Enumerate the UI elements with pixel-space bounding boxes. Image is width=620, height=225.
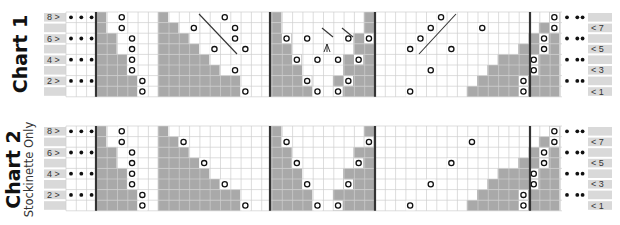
- row-label-bg: [588, 13, 612, 22]
- yarn-over-cell: [220, 13, 229, 23]
- no-stitch-cell: [96, 86, 137, 97]
- row-number-right: < 5: [591, 44, 604, 54]
- yarn-over-cell: [550, 13, 559, 23]
- purl-dot: [79, 37, 83, 41]
- no-stitch-cell: [158, 12, 168, 23]
- no-stitch-cell: [271, 65, 302, 76]
- no-stitch-cell: [158, 190, 240, 201]
- no-stitch-cell: [96, 54, 127, 65]
- purl-dot: [581, 193, 585, 197]
- no-stitch-cell: [96, 12, 106, 23]
- yarn-over-cell: [138, 76, 147, 86]
- purl-dot: [565, 15, 569, 19]
- purl-dot: [581, 129, 585, 133]
- yarn-over-cell: [519, 87, 528, 97]
- yarn-over-cell: [303, 76, 312, 86]
- yarn-over-cell: [416, 34, 425, 44]
- no-stitch-cell: [96, 168, 127, 179]
- yarn-over-cell: [303, 34, 312, 44]
- yarn-over-cell: [220, 180, 229, 190]
- no-stitch-cell: [271, 44, 292, 55]
- yarn-over-cell: [406, 201, 415, 211]
- yarn-over-cell: [550, 137, 559, 147]
- yarn-over-cell: [354, 55, 363, 65]
- purl-dot: [90, 58, 94, 62]
- no-stitch-cell: [487, 179, 559, 190]
- yarn-over-cell: [354, 158, 363, 168]
- no-stitch-cell: [271, 137, 281, 148]
- purl-dot: [90, 129, 94, 133]
- yarn-over-cell: [282, 137, 291, 147]
- row-number-right: < 7: [591, 137, 604, 147]
- yarn-over-cell: [519, 190, 528, 200]
- yarn-over-cell: [117, 23, 126, 33]
- purl-dot: [69, 129, 73, 133]
- yarn-over-cell: [344, 34, 353, 44]
- yarn-over-cell: [127, 55, 136, 65]
- purl-dot: [575, 79, 579, 83]
- purl-dot: [79, 151, 83, 155]
- yarn-over-cell: [200, 158, 209, 168]
- no-stitch-cell: [158, 76, 240, 87]
- no-stitch-cell: [158, 137, 179, 148]
- no-stitch-cell: [96, 76, 137, 87]
- chart-1-grid: 8 >6 >4 >2 >< 7< 5< 3< 1: [0, 0, 620, 108]
- chart-1: Chart 1 8 >6 >4 >2 >< 7< 5< 3< 1: [0, 0, 620, 108]
- yarn-over-cell: [539, 44, 548, 54]
- row-label-bg: [44, 159, 66, 168]
- yarn-over-cell: [406, 44, 415, 54]
- yarn-over-cell: [519, 201, 528, 211]
- purl-dot: [575, 129, 579, 133]
- purl-dot: [79, 58, 83, 62]
- row-number-left: 2 >: [47, 76, 60, 86]
- purl-dot: [90, 151, 94, 155]
- yarn-over-cell: [447, 44, 456, 54]
- purl-dot: [565, 193, 569, 197]
- no-stitch-cell: [518, 158, 559, 169]
- purl-dot: [90, 15, 94, 19]
- row-label-bg: [44, 45, 66, 54]
- purl-dot: [69, 37, 73, 41]
- row-number-left: 4 >: [47, 169, 60, 179]
- no-stitch-cell: [158, 54, 210, 65]
- row-number-left: 6 >: [47, 148, 60, 158]
- no-stitch-cell: [487, 65, 559, 76]
- no-stitch-cell: [96, 137, 106, 148]
- no-stitch-cell: [467, 86, 560, 97]
- yarn-over-cell: [447, 158, 456, 168]
- no-stitch-cell: [271, 179, 302, 190]
- yarn-over-cell: [364, 34, 373, 44]
- yarn-over-cell: [333, 201, 342, 211]
- row-number-left: 2 >: [47, 190, 60, 200]
- purl-dot: [575, 151, 579, 155]
- yarn-over-cell: [127, 148, 136, 158]
- no-stitch-cell: [477, 76, 559, 87]
- no-stitch-cell: [271, 168, 302, 179]
- row-number-right: < 3: [591, 179, 604, 189]
- yarn-over-cell: [117, 13, 126, 23]
- purl-dot: [69, 79, 73, 83]
- no-stitch-cell: [354, 147, 375, 158]
- yarn-over-cell: [117, 137, 126, 147]
- no-stitch-cell: [96, 126, 106, 137]
- central-double-decrease-icon: [324, 44, 330, 52]
- no-stitch-cell: [364, 23, 374, 34]
- purl-dot: [575, 172, 579, 176]
- row-number-left: 4 >: [47, 55, 60, 65]
- purl-dot: [90, 193, 94, 197]
- yarn-over-cell: [333, 55, 342, 65]
- yarn-over-cell: [210, 44, 219, 54]
- yarn-over-cell: [344, 76, 353, 86]
- yarn-over-cell: [127, 34, 136, 44]
- purl-dot: [575, 15, 579, 19]
- no-stitch-cell: [158, 44, 199, 55]
- row-label-bg: [588, 55, 612, 64]
- no-stitch-cell: [271, 147, 292, 158]
- yarn-over-cell: [478, 23, 487, 33]
- no-stitch-cell: [158, 86, 240, 97]
- no-stitch-cell: [271, 190, 312, 201]
- purl-dot: [581, 37, 585, 41]
- yarn-over-cell: [364, 137, 373, 147]
- purl-dot: [581, 15, 585, 19]
- yarn-over-cell: [313, 87, 322, 97]
